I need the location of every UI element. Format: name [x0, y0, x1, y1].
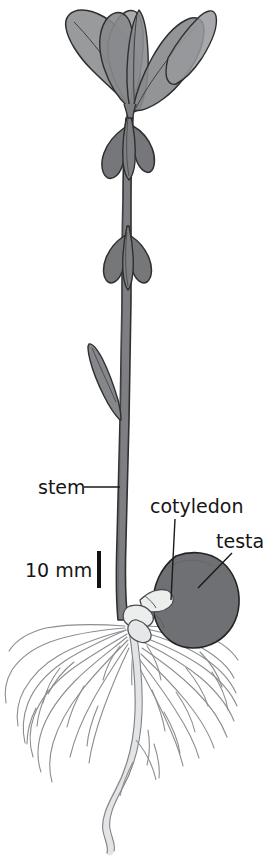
cotyledon-label: cotyledon [150, 495, 243, 517]
testa-label: testa [216, 530, 264, 552]
seedling-diagram: stem cotyledon testa 10 mm [0, 0, 270, 866]
stem-label: stem [38, 476, 86, 498]
scale-label: 10 mm [25, 559, 92, 581]
